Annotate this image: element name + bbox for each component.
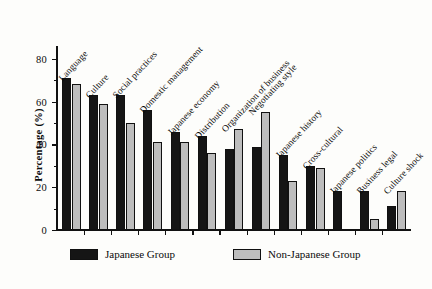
plot-area	[57, 48, 409, 230]
bar-japanese-group	[387, 206, 396, 230]
x-tick-minor	[111, 230, 112, 235]
bar-japanese-group	[62, 78, 71, 230]
bar-japanese-group	[279, 155, 288, 230]
legend-swatch-gray	[233, 249, 261, 260]
bar-non-japanese-group	[288, 181, 297, 230]
bar-japanese-group	[171, 132, 180, 230]
bar-group	[306, 48, 325, 230]
y-tick-label: 20	[36, 182, 47, 193]
bar-japanese-group	[306, 166, 315, 230]
bar-non-japanese-group	[370, 219, 379, 230]
bar-non-japanese-group	[126, 123, 135, 230]
bar-japanese-group	[225, 149, 234, 230]
y-tick-minor	[54, 123, 58, 124]
x-tick-minor	[219, 230, 220, 235]
bar-chart: Percentage (%) Japanese Group Non-Japane…	[0, 0, 432, 289]
x-tick-minor	[192, 230, 193, 235]
x-tick-minor	[247, 230, 248, 235]
bar-group	[143, 48, 162, 230]
legend-label-japanese-group: Japanese Group	[105, 248, 175, 260]
legend-swatch-black	[70, 249, 98, 260]
chart-legend: Japanese Group Non-Japanese Group	[0, 248, 432, 272]
legend-item-non-japanese-group: Non-Japanese Group	[233, 248, 361, 260]
bar-japanese-group	[116, 95, 125, 230]
x-tick-minor	[355, 230, 356, 235]
x-tick-minor	[165, 230, 166, 235]
bar-non-japanese-group	[153, 142, 162, 230]
legend-label-non-japanese-group: Non-Japanese Group	[268, 248, 361, 260]
y-tick-label: 60	[36, 96, 47, 107]
y-tick-minor	[54, 80, 58, 81]
bar-japanese-group	[333, 191, 342, 230]
bar-japanese-group	[143, 110, 152, 230]
y-tick-major	[52, 102, 57, 103]
bar-group	[387, 48, 406, 230]
x-tick-minor	[84, 230, 85, 235]
x-tick-minor	[328, 230, 329, 235]
y-tick-major	[52, 230, 57, 231]
y-tick-minor	[54, 209, 58, 210]
y-tick-major	[52, 59, 57, 60]
bar-non-japanese-group	[261, 112, 270, 230]
bar-non-japanese-group	[316, 168, 325, 230]
legend-item-japanese-group: Japanese Group	[70, 248, 175, 260]
x-tick-minor	[382, 230, 383, 235]
y-tick-major	[52, 187, 57, 188]
bar-japanese-group	[252, 147, 261, 231]
bar-japanese-group	[198, 136, 207, 230]
y-tick-label: 40	[36, 139, 47, 150]
x-tick-minor	[274, 230, 275, 235]
bar-japanese-group	[89, 95, 98, 230]
bar-non-japanese-group	[72, 84, 81, 230]
bar-group	[225, 48, 244, 230]
y-tick-label: 80	[36, 53, 47, 64]
bar-non-japanese-group	[180, 142, 189, 230]
bar-non-japanese-group	[234, 129, 243, 230]
bar-japanese-group	[360, 191, 369, 230]
y-tick-major	[52, 144, 57, 145]
x-tick-minor	[138, 230, 139, 235]
bar-group	[360, 48, 379, 230]
bar-non-japanese-group	[207, 153, 216, 230]
bar-non-japanese-group	[99, 104, 108, 230]
y-tick-label: 0	[42, 225, 47, 236]
bar-non-japanese-group	[397, 191, 406, 230]
x-tick-minor	[301, 230, 302, 235]
y-tick-minor	[54, 166, 58, 167]
